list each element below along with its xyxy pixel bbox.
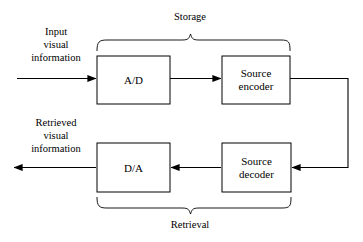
box-source-encoder-label-line1: Source [241, 67, 272, 79]
storage-group-label: Storage [174, 11, 206, 22]
block-diagram: Storage A/D Source encoder D/A Source de… [0, 0, 363, 242]
input-label-line3: information [31, 52, 81, 63]
input-label-line1: Input [45, 26, 67, 37]
storage-brace [97, 34, 290, 51]
box-ad-label: A/D [124, 74, 143, 86]
box-source-decoder-label-line1: Source [241, 155, 272, 167]
box-source-decoder-label-line2: decoder [239, 168, 274, 180]
output-label: Retrieved visual information [31, 117, 81, 154]
encoder-to-decoder-connector [290, 79, 348, 168]
box-da-label: D/A [124, 162, 143, 174]
input-label-line2: visual [43, 39, 68, 50]
input-label: Input visual information [31, 26, 81, 63]
output-label-line3: information [31, 143, 81, 154]
output-label-line2: visual [43, 130, 68, 141]
output-label-line1: Retrieved [36, 117, 78, 128]
box-source-encoder-label-line2: encoder [239, 80, 274, 92]
retrieval-group-label: Retrieval [171, 219, 210, 230]
retrieval-brace [97, 197, 291, 214]
diagram-canvas: Storage A/D Source encoder D/A Source de… [0, 0, 363, 242]
